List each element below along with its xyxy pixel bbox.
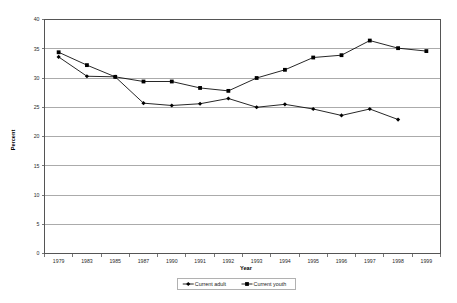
x-tick-label: 1992 <box>223 258 235 264</box>
data-point-square <box>283 68 287 72</box>
y-tick-label: 0 <box>37 250 40 256</box>
x-tick-label: 1991 <box>194 258 206 264</box>
data-point-square <box>57 50 61 54</box>
legend-label: Current youth <box>254 281 287 287</box>
data-point-square <box>170 80 174 84</box>
data-point-square <box>226 89 230 93</box>
y-tick-label: 30 <box>34 75 40 81</box>
data-point-square <box>424 49 428 53</box>
y-tick-label: 40 <box>34 16 40 22</box>
x-tick-label: 1985 <box>109 258 121 264</box>
y-tick-label: 10 <box>34 192 40 198</box>
y-tick-label: 20 <box>34 133 40 139</box>
chart-legend[interactable]: Current adultCurrent youth <box>178 279 296 290</box>
data-point-square <box>311 56 315 60</box>
x-tick-label: 1995 <box>307 258 319 264</box>
data-point-square <box>368 39 372 43</box>
x-tick-label: 1987 <box>138 258 150 264</box>
data-point-square <box>142 80 146 84</box>
x-tick-label: 1993 <box>251 258 263 264</box>
data-point-square <box>255 76 259 80</box>
x-tick-label: 1994 <box>279 258 291 264</box>
x-axis-title: Year <box>240 265 253 271</box>
data-point-square <box>396 46 400 50</box>
y-tick-label: 15 <box>34 163 40 169</box>
legend-label: Current adult <box>195 281 227 287</box>
data-point-square <box>198 86 202 90</box>
x-tick-label: 1999 <box>421 258 433 264</box>
data-point-square <box>85 63 89 67</box>
y-axis-title: Percent <box>10 130 16 151</box>
legend-marker-square <box>245 282 249 286</box>
y-tick-label: 5 <box>37 221 40 227</box>
x-tick-label: 1998 <box>392 258 404 264</box>
data-point-square <box>113 75 117 79</box>
y-tick-label: 25 <box>34 104 40 110</box>
line-chart: 0510152025303540 19791983198519871990199… <box>0 0 457 303</box>
data-point-square <box>340 53 344 57</box>
y-tick-label: 35 <box>34 46 40 52</box>
x-tick-label: 1979 <box>53 258 65 264</box>
chart-canvas: 0510152025303540 19791983198519871990199… <box>0 0 457 303</box>
x-tick-label: 1990 <box>166 258 178 264</box>
x-tick-label: 1983 <box>81 258 93 264</box>
x-tick-label: 1996 <box>336 258 348 264</box>
x-tick-label: 1997 <box>364 258 376 264</box>
